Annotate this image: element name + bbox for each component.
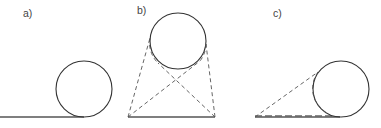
panel-a-circle xyxy=(56,61,112,117)
panel-c-circle xyxy=(313,61,369,117)
panel-b-left-tangent xyxy=(128,38,150,117)
panel-c: c) xyxy=(255,7,369,117)
panel-b-label: b) xyxy=(137,4,146,16)
panel-a-label: a) xyxy=(23,7,32,19)
panel-b-cross-tangent-right xyxy=(158,63,215,117)
panel-c-tangent-line xyxy=(255,72,318,117)
panel-c-label: c) xyxy=(273,7,282,19)
panel-b-cross-tangent-left xyxy=(128,61,200,117)
panel-b-circle xyxy=(150,13,206,69)
panel-a: a) xyxy=(0,7,112,117)
diagram-canvas: a) b) c) xyxy=(0,0,381,128)
panel-b-right-tangent xyxy=(206,44,215,117)
panel-c-contact-arc xyxy=(313,72,327,113)
panel-b: b) xyxy=(128,4,215,117)
